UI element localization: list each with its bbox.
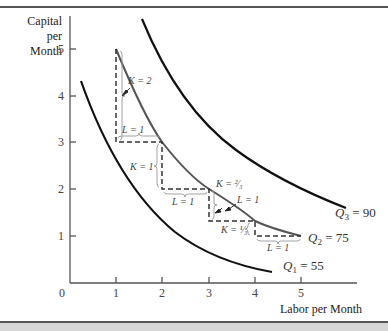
origin-label: 0 <box>59 286 65 300</box>
annotation-k2: K = 2 <box>127 75 151 86</box>
y-tick-label: 3 <box>58 135 64 149</box>
x-axis-label: Labor per Month <box>280 302 362 317</box>
annotations: K = 2 L = 1 K = 1 L = 1 K = ²⁄₃ L = 1 K … <box>121 75 289 253</box>
x-tick-label: 5 <box>298 286 304 300</box>
annotation-l1: L = 1 <box>236 194 259 205</box>
footer-band <box>0 323 388 331</box>
x-tick-label: 2 <box>159 286 165 300</box>
isoquant-q3 <box>142 19 346 208</box>
curve-labels: Q3 = 90 Q2 = 75 Q1 = 55 <box>283 205 376 275</box>
annotation-l1: L = 1 <box>171 196 194 207</box>
x-tick-label: 3 <box>206 286 212 300</box>
annotation-l1: L = 1 <box>266 242 289 253</box>
isoquant-q1 <box>81 81 272 272</box>
x-tick-label: 1 <box>113 286 119 300</box>
annotation-k1: K = 1 <box>129 161 153 172</box>
annotation-k-two-thirds: K = ²⁄₃ <box>215 178 243 189</box>
y-tick-label: 4 <box>58 89 64 103</box>
isoquant-chart: 5 4 3 2 1 0 1 2 3 4 5 K = 2 L = <box>0 0 388 331</box>
y-tick-label: 2 <box>58 182 64 196</box>
q3-label: Q3 = 90 <box>335 205 376 222</box>
q2-label: Q2 = 75 <box>308 230 349 247</box>
y-tick-label: 1 <box>58 229 64 243</box>
annotation-k-one-third: K = ¹⁄₃ <box>220 224 248 235</box>
q1-label: Q1 = 55 <box>283 258 324 275</box>
annotation-l1: L = 1 <box>121 124 144 135</box>
y-tick-label: 5 <box>58 42 64 56</box>
x-tick-label: 4 <box>252 286 258 300</box>
